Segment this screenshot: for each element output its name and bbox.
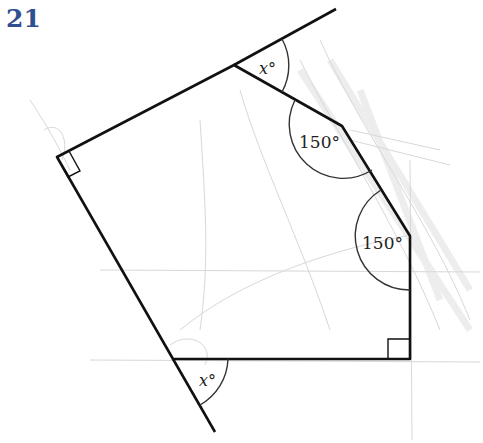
angle-arc-x-top (282, 39, 289, 92)
geometry-diagram: x° 150° 150° x° (0, 0, 483, 443)
right-angle-marker-e (388, 339, 410, 359)
extension-line-bottom (173, 359, 215, 432)
extension-line-top (234, 9, 336, 65)
angle-label-x-top: x° (259, 59, 276, 78)
angle-label-x-bottom: x° (199, 371, 216, 390)
angle-label-150-c: 150° (299, 132, 340, 152)
angle-label-150-d: 150° (362, 233, 403, 253)
